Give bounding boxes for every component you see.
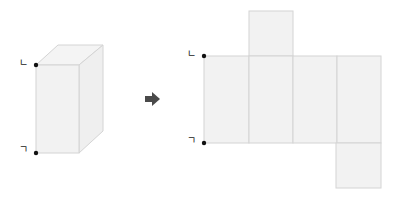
figure [0,0,401,201]
net-point-bottom [202,141,206,145]
net-label-top: ㄴ [187,49,196,59]
prism-front-face [36,65,79,153]
prism-label-bottom: ㄱ [19,145,28,155]
net-face-3 [293,56,337,143]
prism-label-top: ㄴ [19,58,28,68]
right-arrow-icon [145,92,160,106]
net-top-flap [249,11,293,56]
prism-net [202,11,381,188]
net-bottom-flap [336,143,381,188]
prism-point-bottom [34,151,38,155]
net-face-1 [204,56,249,143]
net-face-4 [337,56,381,143]
net-label-bottom: ㄱ [187,136,196,146]
prism-point-top [34,63,38,67]
rectangular-prism [34,45,103,155]
net-face-2 [249,56,293,143]
net-point-top [202,54,206,58]
